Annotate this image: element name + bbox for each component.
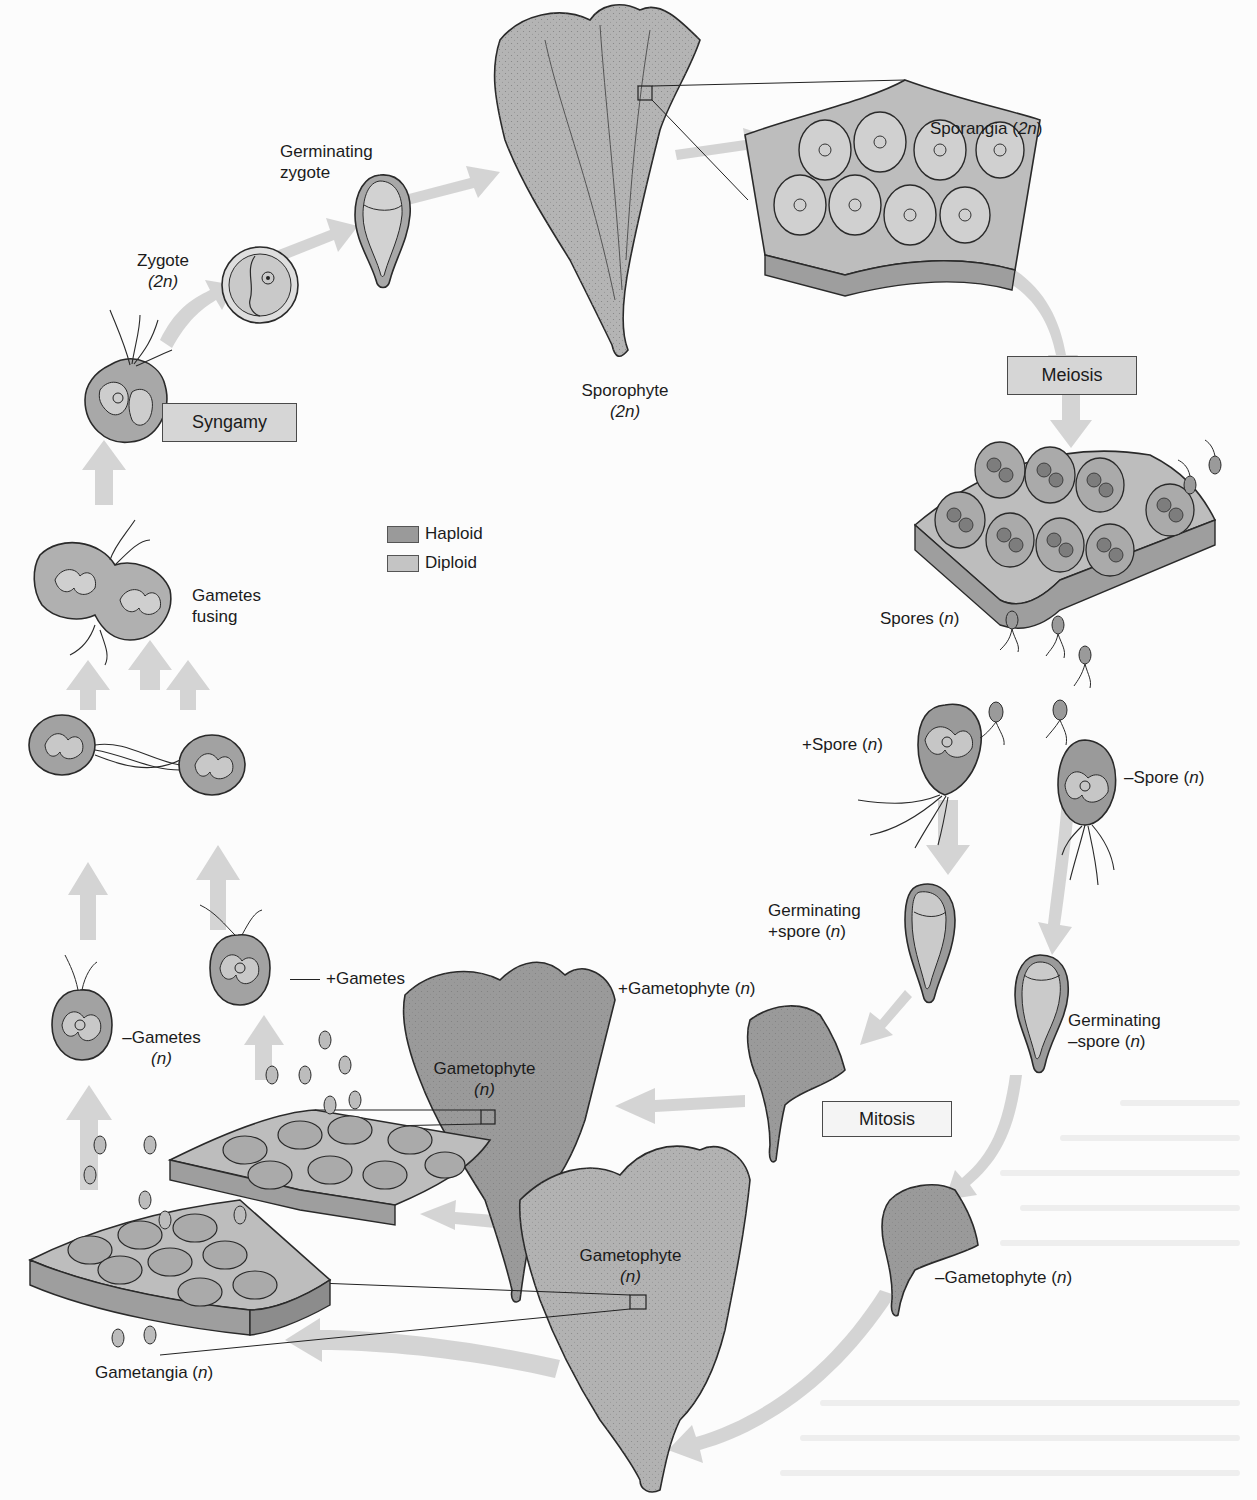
pairing-gametes-icon <box>29 715 245 795</box>
label-sporangia: Sporangia (2n) <box>930 118 1042 139</box>
label-zygote: Zygote (2n) <box>128 250 198 292</box>
label-minus-gametes: –Gametes (n) <box>114 1027 209 1069</box>
background-bleed-line <box>1060 1135 1240 1141</box>
process-box-meiosis: Meiosis <box>1007 356 1137 395</box>
legend-item-diploid: Diploid <box>387 553 477 573</box>
label-minus-gametophyte: –Gametophyte (n) <box>935 1267 1072 1288</box>
haploid-swatch <box>387 526 419 543</box>
plus-gametophyte-icon <box>748 1006 845 1162</box>
label-spores: Spores (n) <box>880 608 959 629</box>
label-plus-gametophyte: +Gametophyte (n) <box>618 978 756 999</box>
background-bleed-line <box>1120 1100 1240 1106</box>
background-bleed-line <box>1020 1205 1240 1211</box>
label-germinating-minus-spore: Germinating –spore (n) <box>1068 1010 1161 1052</box>
minus-gamete-cell-icon <box>52 955 112 1060</box>
spores-slab-icon <box>915 440 1221 688</box>
gametangia-lower-slab-icon <box>30 1200 330 1335</box>
sporangia-slab-icon <box>745 80 1040 296</box>
germinating-minus-spore-icon <box>1015 955 1068 1073</box>
germinating-plus-spore-icon <box>905 884 955 1002</box>
germinating-zygote-icon <box>355 175 410 288</box>
diploid-swatch <box>387 555 419 572</box>
leader-line <box>290 979 320 980</box>
background-bleed-line <box>780 1470 1240 1476</box>
life-cycle-diagram: Sporangia (2n) Germinating zygote Zygote… <box>0 0 1257 1500</box>
label-gametangia: Gametangia (n) <box>95 1362 213 1383</box>
background-bleed-line <box>800 1435 1240 1441</box>
label-plus-gametes: +Gametes <box>290 968 405 989</box>
label-gametophyte-lower: Gametophyte (n) <box>578 1245 683 1287</box>
background-bleed-line <box>820 1400 1240 1406</box>
label-plus-spore: +Spore (n) <box>802 734 883 755</box>
background-bleed-line <box>1000 1170 1240 1176</box>
label-gametes-fusing: Gametes fusing <box>192 585 261 627</box>
process-box-syngamy: Syngamy <box>162 403 297 442</box>
plus-spore-icon <box>858 702 1004 848</box>
label-germinating-zygote: Germinating zygote <box>280 141 373 183</box>
label-sporophyte: Sporophyte (2n) <box>560 380 690 422</box>
label-gametophyte-upper: Gametophyte (n) <box>432 1058 537 1100</box>
label-germinating-plus-spore: Germinating +spore (n) <box>768 900 861 942</box>
legend-item-haploid: Haploid <box>387 524 483 544</box>
process-box-mitosis: Mitosis <box>822 1101 952 1137</box>
background-bleed-line <box>1000 1240 1240 1246</box>
flagellate-zygote-icon <box>85 310 172 442</box>
minus-gametophyte-icon <box>882 1185 978 1316</box>
zygote-cell-icon <box>222 247 298 323</box>
label-minus-spore: –Spore (n) <box>1124 767 1204 788</box>
